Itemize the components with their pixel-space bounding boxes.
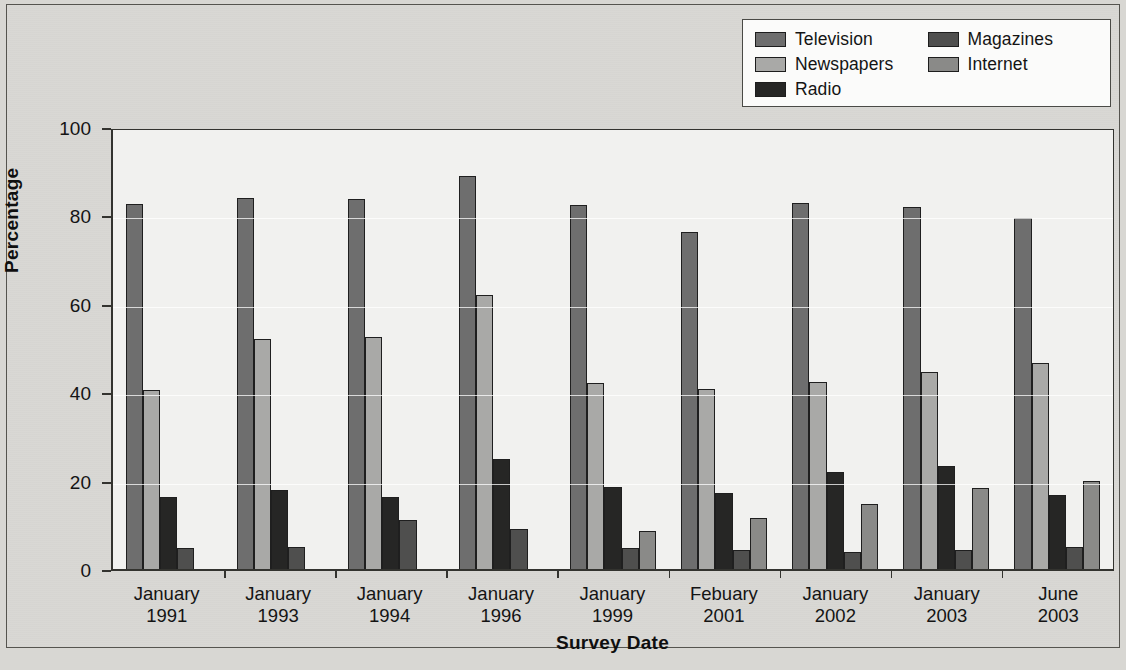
- x-label-month: January: [468, 583, 534, 604]
- legend-swatch-newspapers: [755, 57, 786, 72]
- bar-newspapers[interactable]: [809, 382, 826, 569]
- bar-group-bars: [348, 130, 434, 569]
- bar-television[interactable]: [792, 203, 809, 569]
- bar-group-bars: [1014, 130, 1100, 569]
- bar-newspapers[interactable]: [698, 389, 715, 569]
- x-axis-label: January1996: [445, 583, 556, 627]
- bar-internet[interactable]: [972, 488, 989, 569]
- bar-television[interactable]: [237, 198, 254, 569]
- bar-group: [1002, 130, 1113, 569]
- x-label-month: January: [914, 583, 980, 604]
- x-axis-label: January2002: [780, 583, 891, 627]
- bar-internet[interactable]: [639, 531, 656, 569]
- legend-swatch-magazines: [928, 32, 959, 47]
- bar-radio[interactable]: [271, 490, 288, 569]
- bar-television[interactable]: [126, 204, 143, 569]
- legend-item-magazines[interactable]: Magazines: [928, 27, 1101, 52]
- x-label-month: Febuary: [690, 583, 758, 604]
- x-label-year: 1991: [111, 605, 222, 627]
- legend-item-internet[interactable]: Internet: [928, 52, 1101, 77]
- bar-television[interactable]: [681, 232, 698, 569]
- bar-television[interactable]: [1014, 218, 1031, 569]
- legend-item-radio[interactable]: Radio: [755, 77, 928, 102]
- x-tick-mark: [557, 569, 559, 578]
- bar-television[interactable]: [459, 176, 476, 569]
- bar-television[interactable]: [570, 205, 587, 569]
- bar-internet[interactable]: [1083, 481, 1100, 569]
- y-tick-label: 40: [31, 383, 91, 405]
- bar-group: [891, 130, 1002, 569]
- bar-magazines[interactable]: [399, 520, 416, 569]
- gridline: [113, 484, 1113, 485]
- x-tick-mark: [224, 569, 226, 578]
- x-label-year: 1993: [222, 605, 333, 627]
- x-label-year: 1996: [445, 605, 556, 627]
- bar-magazines[interactable]: [1066, 547, 1083, 569]
- x-label-year: 2003: [891, 605, 1002, 627]
- bar-group-bars: [570, 130, 656, 569]
- bar-radio[interactable]: [160, 497, 177, 569]
- x-axis-label: January1999: [557, 583, 668, 627]
- bar-radio[interactable]: [827, 472, 844, 569]
- x-tick-mark: [335, 569, 337, 578]
- bar-group: [335, 130, 446, 569]
- y-tick-mark: [102, 305, 111, 307]
- y-tick-label: 80: [31, 206, 91, 228]
- legend-column-left: TelevisionNewspapersRadio: [755, 27, 928, 102]
- y-tick-mark: [102, 128, 111, 130]
- bar-magazines[interactable]: [288, 547, 305, 569]
- legend-label: Internet: [968, 54, 1028, 75]
- y-tick-label: 0: [31, 560, 91, 582]
- x-tick-mark: [780, 569, 782, 578]
- bar-internet[interactable]: [861, 504, 878, 569]
- gridline: [113, 218, 1113, 219]
- y-tick-mark: [102, 216, 111, 218]
- bar-radio[interactable]: [382, 497, 399, 569]
- bar-magazines[interactable]: [622, 548, 639, 569]
- legend-item-newspapers[interactable]: Newspapers: [755, 52, 928, 77]
- chart-figure: TelevisionNewspapersRadio MagazinesInter…: [6, 4, 1120, 648]
- x-axis-label: January1994: [334, 583, 445, 627]
- bar-radio[interactable]: [604, 487, 621, 569]
- bar-magazines[interactable]: [733, 550, 750, 569]
- y-tick-label: 60: [31, 295, 91, 317]
- x-label-month: January: [357, 583, 423, 604]
- y-tick-mark: [102, 570, 111, 572]
- bar-newspapers[interactable]: [365, 337, 382, 569]
- bar-group: [780, 130, 891, 569]
- x-label-year: 2002: [780, 605, 891, 627]
- x-label-year: 2001: [668, 605, 779, 627]
- x-axis-title: Survey Date: [111, 632, 1114, 654]
- x-tick-mark: [1002, 569, 1004, 578]
- legend-swatch-internet: [928, 57, 959, 72]
- bar-radio[interactable]: [715, 493, 732, 569]
- bar-newspapers[interactable]: [587, 383, 604, 569]
- bar-television[interactable]: [903, 207, 920, 569]
- y-tick-label: 100: [31, 118, 91, 140]
- bar-newspapers[interactable]: [143, 390, 160, 569]
- bars-container: [113, 130, 1113, 569]
- bar-newspapers[interactable]: [921, 372, 938, 569]
- bar-radio[interactable]: [1049, 495, 1066, 569]
- bar-magazines[interactable]: [955, 550, 972, 569]
- bar-internet[interactable]: [750, 518, 767, 569]
- bar-radio[interactable]: [493, 459, 510, 570]
- bar-magazines[interactable]: [177, 548, 194, 569]
- legend-item-television[interactable]: Television: [755, 27, 928, 52]
- x-axis-label: January1993: [222, 583, 333, 627]
- x-label-year: 1999: [557, 605, 668, 627]
- bar-newspapers[interactable]: [476, 295, 493, 569]
- legend-label: Magazines: [968, 29, 1054, 50]
- bar-television[interactable]: [348, 199, 365, 569]
- x-tick-mark: [446, 569, 448, 578]
- legend-label: Television: [795, 29, 873, 50]
- x-tick-mark: [669, 569, 671, 578]
- y-tick-mark: [102, 393, 111, 395]
- y-tick-label: 20: [31, 472, 91, 494]
- bar-magazines[interactable]: [510, 529, 527, 569]
- bar-group: [113, 130, 224, 569]
- bar-newspapers[interactable]: [254, 339, 271, 569]
- legend-swatch-radio: [755, 82, 786, 97]
- bar-radio[interactable]: [938, 466, 955, 569]
- bar-magazines[interactable]: [844, 552, 861, 569]
